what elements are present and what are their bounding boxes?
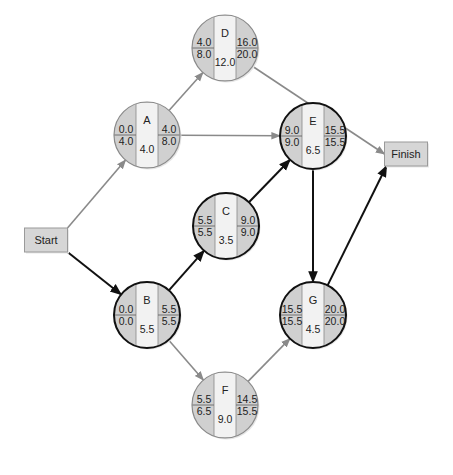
earliest-start-es: 5.5 (197, 393, 212, 405)
latest-start-lf_left: 15.5 (282, 315, 303, 327)
node-id-label: G (309, 294, 318, 306)
earliest-start-es: 9.0 (285, 124, 300, 136)
earliest-start-es: 15.5 (282, 303, 303, 315)
activity-node-d: D4.08.016.020.012.0 (192, 15, 260, 83)
network-diagram: StartFinish A0.04.04.08.04.0B0.00.05.55.… (0, 0, 453, 475)
activity-duration-duration: 5.5 (140, 323, 155, 335)
activity-node-f: F5.56.514.515.59.0 (192, 372, 260, 440)
activity-duration-duration: 4.5 (306, 323, 321, 335)
activity-node-c: C5.55.59.09.03.5 (193, 193, 261, 261)
latest-start-lf_left: 6.5 (197, 405, 212, 417)
earliest-finish-ef: 5.5 (162, 303, 177, 315)
latest-finish-lf: 8.0 (162, 135, 177, 147)
activity-node-b: B0.00.05.55.55.5 (114, 282, 182, 350)
finish-box: Finish (385, 142, 430, 168)
start-box: Start (25, 228, 70, 254)
activity-duration-duration: 4.0 (140, 143, 155, 155)
latest-start-lf_left: 4.0 (119, 135, 134, 147)
start-label: Start (34, 234, 57, 246)
earliest-finish-ef: 14.5 (237, 393, 258, 405)
earliest-start-es: 0.0 (119, 123, 134, 135)
latest-finish-lf: 15.5 (237, 405, 258, 417)
activity-duration-duration: 12.0 (215, 56, 236, 68)
earliest-start-es: 0.0 (119, 303, 134, 315)
latest-start-lf_left: 8.0 (197, 48, 212, 60)
edge-start-to-a (68, 160, 126, 228)
latest-finish-lf: 20.0 (325, 315, 346, 327)
edge-b-to-f (169, 340, 204, 380)
latest-finish-lf: 15.5 (325, 136, 346, 148)
latest-finish-lf: 20.0 (237, 48, 258, 60)
node-id-label: B (143, 294, 150, 306)
activity-node-g: G15.515.520.020.04.5 (280, 282, 348, 350)
edge-b-to-c (169, 251, 204, 291)
activity-duration-duration: 3.5 (219, 234, 234, 246)
node-id-label: E (309, 115, 316, 127)
latest-finish-lf: 9.0 (241, 226, 256, 238)
node-id-label: F (222, 384, 229, 396)
edge-c-to-e (249, 160, 290, 203)
activity-duration-duration: 9.0 (218, 413, 233, 425)
earliest-start-es: 4.0 (197, 36, 212, 48)
latest-start-lf_left: 5.5 (198, 226, 213, 238)
edge-a-to-e (180, 135, 280, 136)
activity-duration-duration: 6.5 (306, 144, 321, 156)
activity-node-e: E9.09.015.515.56.5 (280, 103, 348, 171)
earliest-finish-ef: 16.0 (237, 36, 258, 48)
latest-start-lf_left: 9.0 (285, 136, 300, 148)
node-id-label: D (221, 27, 229, 39)
finish-label: Finish (391, 148, 420, 160)
earliest-finish-ef: 20.0 (325, 303, 346, 315)
edge-g-to-finish (328, 166, 387, 285)
earliest-finish-ef: 4.0 (162, 123, 177, 135)
node-id-label: C (222, 205, 230, 217)
node-id-label: A (143, 114, 151, 126)
edge-f-to-g (248, 339, 290, 382)
earliest-finish-ef: 15.5 (325, 124, 346, 136)
earliest-start-es: 5.5 (198, 214, 213, 226)
latest-finish-lf: 5.5 (162, 315, 177, 327)
earliest-finish-ef: 9.0 (241, 214, 256, 226)
latest-start-lf_left: 0.0 (119, 315, 134, 327)
edge-a-to-d (169, 73, 203, 111)
edge-start-to-b (68, 252, 122, 295)
activity-node-a: A0.04.04.08.04.0 (114, 102, 182, 170)
